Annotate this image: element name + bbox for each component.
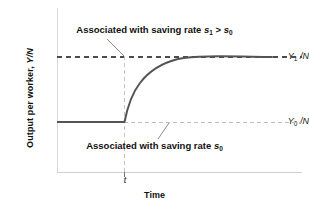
annotation-low-saving-rate: Associated with saving rate s0: [0, 140, 309, 151]
high-annotation-leader-line: [107, 39, 124, 56]
annotation-high-saving-rate: Associated with saving rate s1 > s0: [0, 24, 309, 35]
annotation-low-prefix: Associated with saving rate: [86, 140, 214, 151]
annotation-high-s0-subscript: 0: [229, 29, 233, 36]
annotation-high-prefix: Associated with saving rate: [76, 24, 204, 35]
annotation-high-operator: >: [213, 24, 224, 35]
output-per-worker-curve: [125, 56, 273, 122]
low-annotation-leader-line: [158, 123, 169, 139]
chart-figure: Output per worker, Y/N Time Y1 /N Y0 /N …: [0, 0, 309, 211]
annotation-high-s1-subscript: 1: [209, 29, 213, 36]
annotation-low-s0-subscript: 0: [219, 145, 223, 152]
